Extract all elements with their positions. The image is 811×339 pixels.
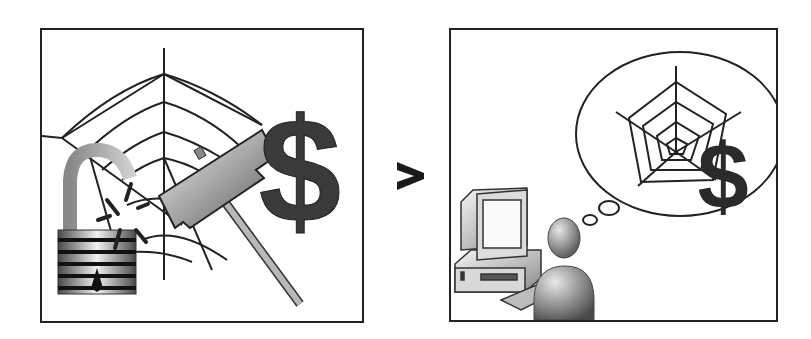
- dollar-sign-icon: $: [259, 88, 341, 253]
- right-panel: $: [449, 28, 778, 322]
- left-illustration: $: [42, 30, 362, 321]
- left-panel: $: [40, 28, 364, 323]
- right-illustration: $: [451, 30, 776, 320]
- comparison-symbol-text: >: [0, 0, 1, 1]
- person-icon: [534, 218, 594, 320]
- dollar-sign-icon: $: [697, 125, 748, 227]
- greater-than-symbol: [392, 158, 428, 194]
